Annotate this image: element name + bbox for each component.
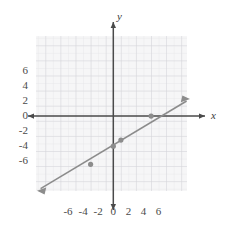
data-point <box>88 162 93 167</box>
y-tick-label-neg4: -4 <box>8 140 28 151</box>
y-tick-label-2: 2 <box>12 95 28 106</box>
y-axis-label: y <box>117 11 122 22</box>
y-tick-label-neg2: -2 <box>8 125 28 136</box>
x-axis-label: x <box>211 110 216 121</box>
y-tick-label-6: 6 <box>12 65 28 76</box>
x-tick-label-6: 6 <box>149 206 169 217</box>
y-tick-label-0: 0 <box>12 110 28 121</box>
graph-figure: 6 4 2 0 -2 -4 -6 -6 -4 -2 0 2 4 6 y x <box>0 0 227 237</box>
data-point <box>111 144 116 149</box>
y-tick-label-4: 4 <box>12 80 28 91</box>
y-tick-label-neg6: -6 <box>8 155 28 166</box>
data-point <box>118 138 123 143</box>
data-point <box>149 114 154 119</box>
coordinate-plane <box>0 0 227 237</box>
